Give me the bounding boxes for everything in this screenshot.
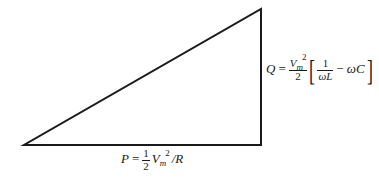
v-symbol: V: [152, 151, 160, 166]
minus-sign: −: [336, 61, 343, 76]
triangle-shape: [24, 9, 261, 145]
q-symbol: Q: [266, 61, 275, 76]
equals-sign: =: [278, 61, 285, 76]
omega-c-term: ωC: [347, 61, 365, 76]
vm-squared-over-2-fraction: Vm22: [289, 58, 308, 82]
p-symbol: P: [121, 151, 129, 166]
over-r-term: /R: [172, 151, 184, 166]
one-half-fraction: 12: [142, 148, 150, 172]
equals-sign: =: [132, 151, 139, 166]
m-subscript: m: [160, 158, 167, 168]
squared-superscript: 2: [165, 148, 170, 158]
real-power-label: P=12Vm2/R: [121, 148, 183, 172]
close-bracket: ]: [367, 55, 373, 85]
open-bracket: [: [309, 55, 315, 85]
reactive-power-label: Q=Vm22[1ωL−ωC]: [266, 55, 375, 85]
one-over-omega-l-fraction: 1ωL: [317, 58, 333, 82]
power-triangle: [0, 0, 379, 182]
